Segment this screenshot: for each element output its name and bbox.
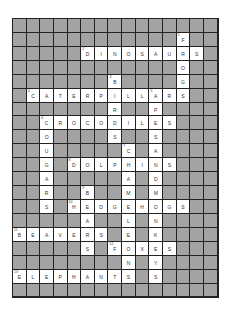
letter-cell[interactable]: 5A [149,89,163,103]
letter-cell[interactable]: R [54,116,68,130]
letter-cell[interactable]: S [190,47,204,61]
letter-cell[interactable]: D [149,172,163,186]
letter-cell[interactable]: N [95,270,109,284]
letter-cell[interactable]: S [149,130,163,144]
letter-cell[interactable]: A [81,270,95,284]
letter-cell[interactable]: P [54,270,68,284]
letter-cell[interactable]: I [136,158,150,172]
letter-cell[interactable]: S [108,130,122,144]
letter-cell[interactable]: A [149,144,163,158]
letter-cell[interactable]: A [40,172,54,186]
letter-cell[interactable]: E [40,270,54,284]
letter-cell[interactable]: S [177,89,191,103]
letter-cell[interactable]: A [122,172,136,186]
letter-cell[interactable]: G [40,158,54,172]
letter-cell[interactable]: A [149,47,163,61]
letter-cell[interactable]: E [149,116,163,130]
letter-cell[interactable]: S [163,242,177,256]
letter-cell[interactable]: N [122,256,136,270]
letter-cell[interactable]: A [40,89,54,103]
letter-cell[interactable]: L [122,214,136,228]
letter-cell[interactable]: T [108,270,122,284]
letter-cell[interactable]: S [81,242,95,256]
letter-cell[interactable]: O [149,200,163,214]
letter-cell[interactable]: S [122,270,136,284]
letter-cell[interactable]: N [149,158,163,172]
letter-cell[interactable]: 2D [81,47,95,61]
letter-cell[interactable]: O [40,130,54,144]
letter-cell[interactable]: S [95,228,109,242]
letter-cell[interactable]: A [40,228,54,242]
letter-cell[interactable]: 3B [108,75,122,89]
letter-cell[interactable]: N [108,47,122,61]
letter-cell[interactable]: T [54,89,68,103]
letter-cell[interactable]: P [108,158,122,172]
letter-cell[interactable]: E [149,242,163,256]
letter-cell[interactable]: O [122,47,136,61]
letter-cell[interactable]: S [40,200,54,214]
letter-cell[interactable]: H [68,270,82,284]
letter-cell[interactable]: 13E [13,270,27,284]
letter-cell[interactable]: I [122,116,136,130]
letter-cell[interactable]: O [177,61,191,75]
letter-cell[interactable]: 11B [13,228,27,242]
letter-cell[interactable]: H [136,200,150,214]
letter-cell[interactable]: O [95,116,109,130]
letter-cell[interactable]: 6C [40,116,54,130]
letter-cell[interactable]: E [122,228,136,242]
letter-cell[interactable]: R [108,103,122,117]
letter-cell[interactable]: L [136,116,150,130]
letter-cell[interactable]: 7C [122,144,136,158]
letter-cell[interactable]: 12F [108,242,122,256]
letter-cell[interactable]: A [81,214,95,228]
letter-cell[interactable]: 9B [81,186,95,200]
letter-cell[interactable]: 1F [177,33,191,47]
letter-cell[interactable]: R [81,89,95,103]
letter-cell[interactable]: H [122,158,136,172]
letter-cell[interactable]: P [149,103,163,117]
letter-cell[interactable]: Y [149,256,163,270]
letter-cell[interactable]: D [108,116,122,130]
letter-cell[interactable]: G [163,200,177,214]
letter-cell[interactable]: R [40,186,54,200]
letter-cell[interactable]: S [177,200,191,214]
letter-cell[interactable]: I [108,89,122,103]
letter-cell[interactable]: R [177,47,191,61]
letter-cell[interactable]: L [95,158,109,172]
letter-cell[interactable]: D [95,200,109,214]
letter-cell[interactable]: L [136,89,150,103]
block-cell [163,75,177,89]
letter-cell[interactable]: 4C [27,89,41,103]
letter-cell[interactable]: G [177,75,191,89]
letter-cell[interactable]: K [149,228,163,242]
letter-cell[interactable]: L [27,270,41,284]
letter-cell[interactable]: O [122,242,136,256]
letter-cell[interactable]: R [163,89,177,103]
letter-cell[interactable]: E [122,200,136,214]
letter-cell[interactable]: P [95,89,109,103]
letter-cell[interactable]: 8D [68,158,82,172]
letter-cell[interactable]: S [149,270,163,284]
letter-cell[interactable]: O [81,158,95,172]
letter-cell[interactable]: N [149,214,163,228]
letter-cell[interactable]: X [136,242,150,256]
letter-cell[interactable]: E [68,228,82,242]
letter-cell[interactable]: 10H [68,200,82,214]
letter-cell[interactable]: U [163,47,177,61]
letter-cell[interactable]: E [27,228,41,242]
letter-cell[interactable]: M [122,186,136,200]
letter-cell[interactable]: M [149,186,163,200]
letter-cell[interactable]: G [108,200,122,214]
letter-cell[interactable]: S [136,47,150,61]
letter-cell[interactable]: S [163,158,177,172]
letter-cell[interactable]: R [81,228,95,242]
letter-cell[interactable]: I [95,47,109,61]
letter-cell[interactable]: E [68,89,82,103]
letter-cell[interactable]: L [122,89,136,103]
letter-cell[interactable]: V [54,228,68,242]
letter-cell[interactable]: U [40,144,54,158]
letter-cell[interactable]: O [68,116,82,130]
letter-cell[interactable]: S [163,116,177,130]
letter-cell[interactable]: E [81,200,95,214]
letter-cell[interactable]: C [81,116,95,130]
